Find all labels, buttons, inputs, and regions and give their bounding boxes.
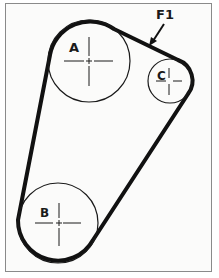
belt-diagram: A C B F1 bbox=[0, 0, 219, 278]
drive-belt bbox=[18, 21, 192, 260]
pulley-a-label: A bbox=[69, 40, 79, 55]
pulley-a: A bbox=[48, 20, 130, 102]
f1-label: F1 bbox=[156, 7, 174, 22]
pulley-c: C bbox=[148, 59, 192, 103]
pulley-c-label: C bbox=[157, 69, 166, 83]
pulley-b: B bbox=[18, 183, 98, 263]
f1-callout: F1 bbox=[149, 7, 174, 46]
pulley-b-label: B bbox=[40, 206, 49, 220]
